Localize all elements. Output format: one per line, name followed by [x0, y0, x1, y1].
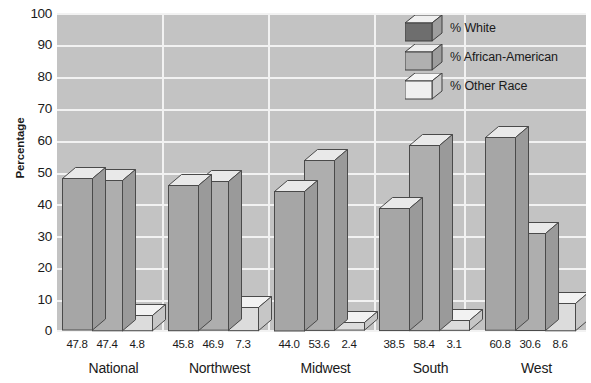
y-tick-10: 10 — [16, 293, 52, 307]
bar-northwest-white[interactable] — [168, 185, 198, 330]
y-tick-70: 70 — [16, 102, 52, 116]
x-group-values-northwest: 45.846.97.3 — [164, 338, 275, 354]
value-label-south-white: 38.5 — [377, 338, 411, 350]
chart-legend: % White % African-American % Other R — [405, 13, 586, 100]
y-tick-40: 40 — [16, 198, 52, 212]
x-category-label-northwest: Northwest — [164, 360, 275, 376]
x-category-label-national: National — [58, 360, 169, 376]
value-label-midwest-african-american: 53.6 — [302, 338, 336, 350]
value-label-northwest-african-american: 46.9 — [196, 338, 230, 350]
gridline-v-3 — [374, 13, 376, 332]
value-label-south-african-american: 58.4 — [407, 338, 441, 350]
legend-item-white[interactable]: % White — [405, 13, 586, 42]
value-label-northwest-white: 45.8 — [166, 338, 200, 350]
x-group-south: 38.558.43.1South — [375, 338, 486, 354]
legend-label-other-race: % Other Race — [450, 79, 527, 93]
bar-south-white[interactable] — [379, 208, 409, 330]
value-label-national-white: 47.8 — [60, 338, 94, 350]
x-group-midwest: 44.053.62.4Midwest — [270, 338, 381, 354]
x-group-national: 47.847.44.8National — [58, 338, 169, 354]
value-label-west-other-race: 8.6 — [543, 338, 577, 350]
x-group-values-south: 38.558.43.1 — [375, 338, 486, 354]
x-group-northwest: 45.846.97.3Northwest — [164, 338, 275, 354]
gridline-v-1 — [162, 13, 164, 332]
y-tick-50: 50 — [16, 166, 52, 180]
value-label-national-other-race: 4.8 — [120, 338, 154, 350]
bar-midwest-white[interactable] — [274, 191, 304, 330]
value-label-west-african-american: 30.6 — [513, 338, 547, 350]
y-tick-0: 0 — [16, 324, 52, 338]
legend-item-other-race[interactable]: % Other Race — [405, 71, 586, 100]
y-tick-90: 90 — [16, 38, 52, 52]
x-category-label-west: West — [481, 360, 591, 376]
y-tick-20: 20 — [16, 261, 52, 275]
value-label-midwest-white: 44.0 — [272, 338, 306, 350]
value-label-west-white: 60.8 — [483, 338, 517, 350]
x-group-values-national: 47.847.44.8 — [58, 338, 169, 354]
cube-icon-light — [405, 73, 443, 100]
legend-item-african-american[interactable]: % African-American — [405, 42, 586, 71]
y-tick-30: 30 — [16, 230, 52, 244]
value-label-south-other-race: 3.1 — [437, 338, 471, 350]
bar-national-white[interactable] — [62, 178, 92, 330]
cube-icon-medium — [405, 44, 443, 71]
x-group-west: 60.830.68.6West — [481, 338, 591, 354]
y-axis-tick-labels: 100 90 80 70 60 50 40 30 20 10 0 — [14, 0, 52, 383]
y-tick-100: 100 — [16, 7, 52, 21]
bar-chart: Percentage 100 90 80 70 60 50 40 30 20 1… — [0, 0, 591, 383]
y-tick-60: 60 — [16, 134, 52, 148]
gridline-h-70 — [57, 109, 586, 111]
x-group-values-west: 60.830.68.6 — [481, 338, 591, 354]
value-label-national-african-american: 47.4 — [90, 338, 124, 350]
bar-west-white[interactable] — [485, 137, 515, 330]
x-category-label-midwest: Midwest — [270, 360, 381, 376]
x-group-values-midwest: 44.053.62.4 — [270, 338, 381, 354]
legend-label-african-american: % African-American — [450, 50, 558, 64]
gridline-v-2 — [268, 13, 270, 332]
x-category-label-south: South — [375, 360, 486, 376]
value-label-northwest-other-race: 7.3 — [226, 338, 260, 350]
cube-icon-dark — [405, 15, 443, 42]
legend-label-white: % White — [450, 21, 496, 35]
value-label-midwest-other-race: 2.4 — [332, 338, 366, 350]
y-tick-80: 80 — [16, 70, 52, 84]
